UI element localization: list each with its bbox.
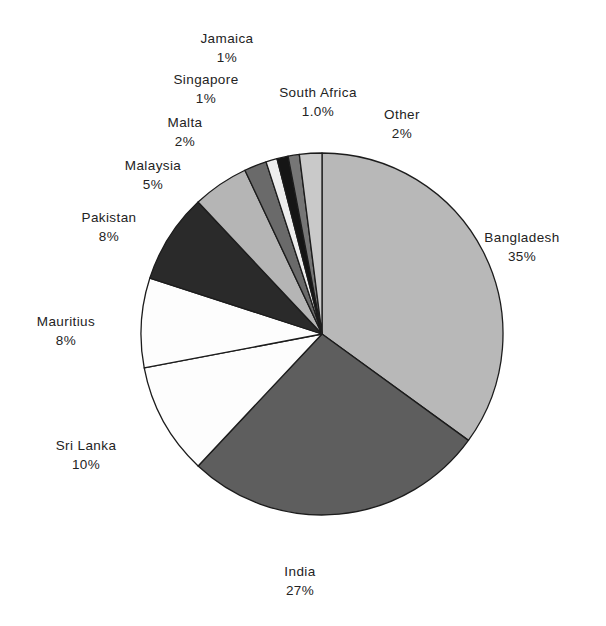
pie-label-other: Other 2% [384, 106, 420, 143]
pie-label-bangladesh-name: Bangladesh [484, 229, 559, 248]
pie-label-mauritius-name: Mauritius [37, 313, 95, 332]
pie-label-malta-value: 2% [167, 133, 202, 152]
pie-label-pakistan-value: 8% [82, 228, 137, 247]
pie-label-singapore: Singapore 1% [173, 71, 238, 108]
pie-chart-figure: Jamaica 1% Singapore 1% South Africa 1.0… [0, 0, 606, 626]
pie-label-other-value: 2% [384, 125, 420, 144]
pie-label-jamaica-name: Jamaica [200, 30, 253, 49]
pie-slices-group [141, 153, 503, 515]
pie-label-india-name: India [284, 563, 315, 582]
pie-label-south-africa: South Africa 1.0% [279, 84, 357, 121]
pie-label-sri-lanka-name: Sri Lanka [56, 437, 117, 456]
pie-label-india: India 27% [284, 563, 315, 600]
pie-label-other-name: Other [384, 106, 420, 125]
pie-label-mauritius: Mauritius 8% [37, 313, 95, 350]
pie-label-jamaica: Jamaica 1% [200, 30, 253, 67]
pie-label-sri-lanka-value: 10% [56, 456, 117, 475]
pie-label-singapore-value: 1% [173, 90, 238, 109]
pie-label-south-africa-name: South Africa [279, 84, 357, 103]
pie-label-malaysia: Malaysia 5% [125, 157, 181, 194]
pie-label-pakistan-name: Pakistan [82, 209, 137, 228]
pie-label-sri-lanka: Sri Lanka 10% [56, 437, 117, 474]
pie-label-singapore-name: Singapore [173, 71, 238, 90]
pie-label-malaysia-value: 5% [125, 176, 181, 195]
pie-label-india-value: 27% [284, 582, 315, 601]
pie-label-bangladesh: Bangladesh 35% [484, 229, 559, 266]
pie-label-jamaica-value: 1% [200, 49, 253, 68]
pie-label-mauritius-value: 8% [37, 332, 95, 351]
pie-label-malaysia-name: Malaysia [125, 157, 181, 176]
pie-label-bangladesh-value: 35% [484, 248, 559, 267]
pie-label-malta-name: Malta [167, 114, 202, 133]
pie-label-south-africa-value: 1.0% [279, 103, 357, 122]
pie-label-malta: Malta 2% [167, 114, 202, 151]
pie-label-pakistan: Pakistan 8% [82, 209, 137, 246]
